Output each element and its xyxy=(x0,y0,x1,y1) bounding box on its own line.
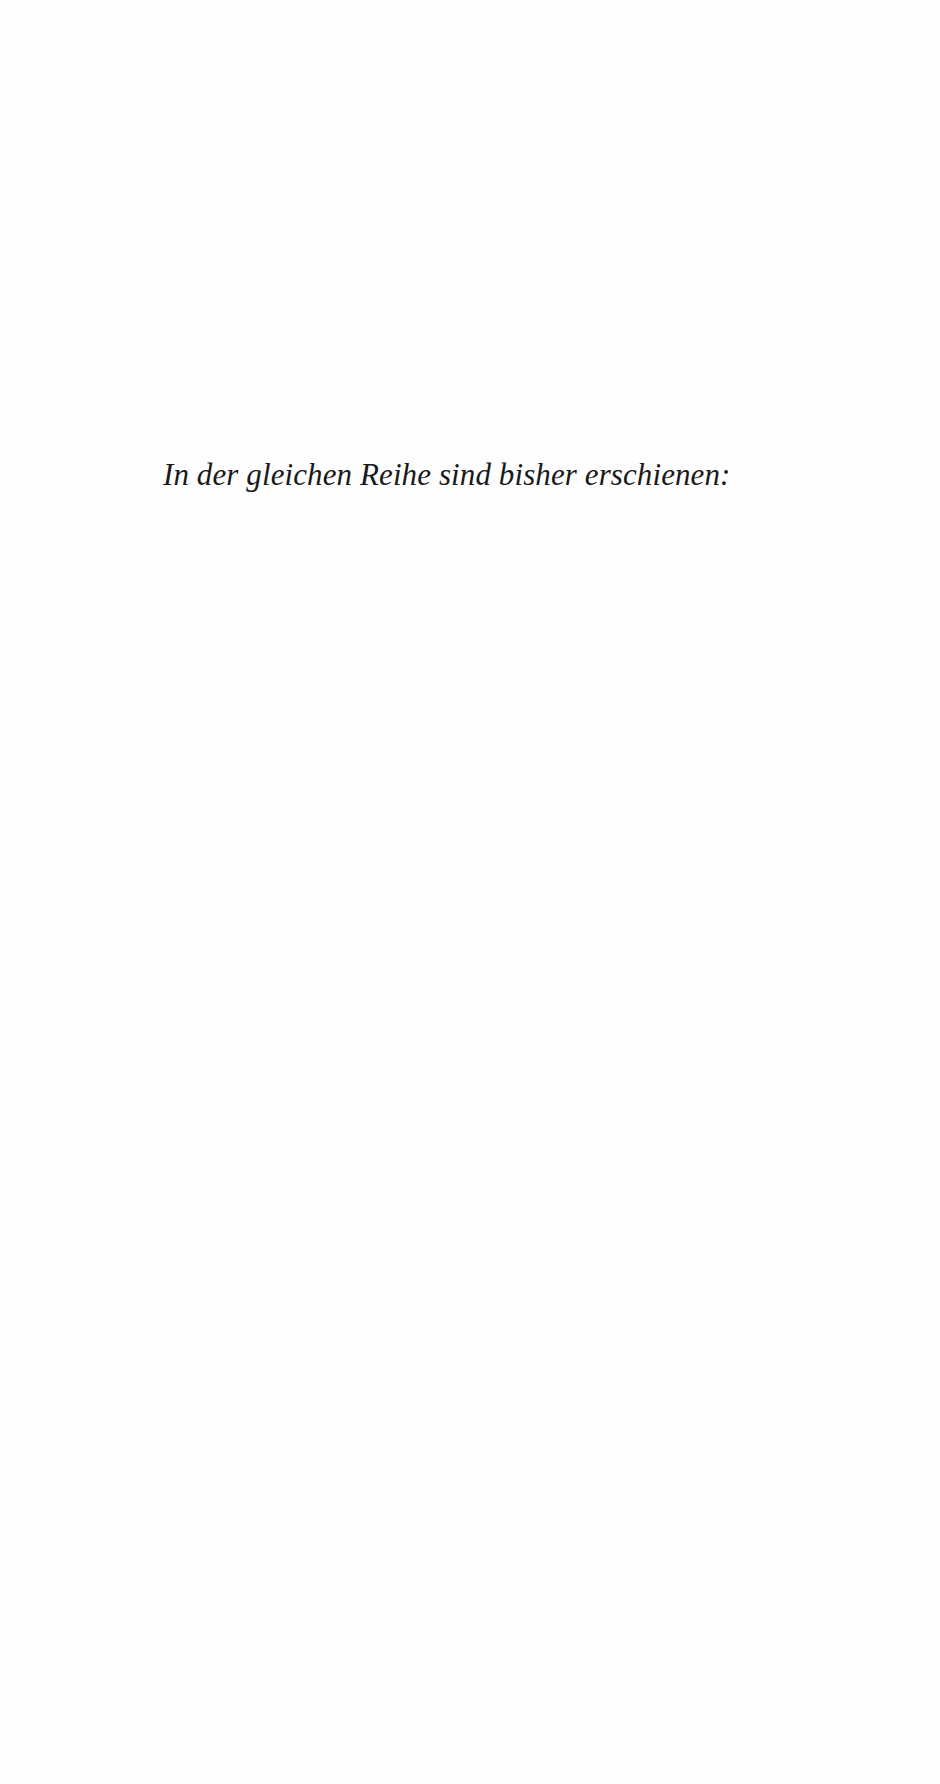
book-page: In der gleichen Reihe sind bisher erschi… xyxy=(0,0,940,1784)
series-list-heading: In der gleichen Reihe sind bisher erschi… xyxy=(163,455,731,495)
